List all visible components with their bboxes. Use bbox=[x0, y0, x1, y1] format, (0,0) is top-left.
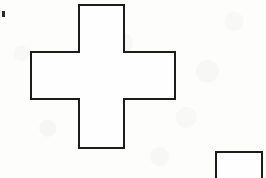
figure-canvas bbox=[0, 0, 266, 178]
clipped-rectangle bbox=[216, 152, 262, 178]
plus-cross-polygon bbox=[31, 5, 175, 148]
ink-speck bbox=[2, 11, 5, 17]
line-drawing bbox=[0, 0, 266, 178]
